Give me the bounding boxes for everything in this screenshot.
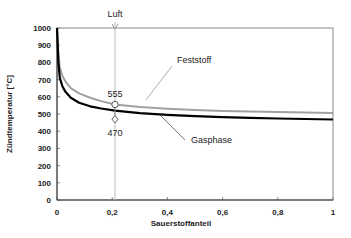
y-tick-label: 800: [38, 58, 52, 67]
series-line-gasphase: [57, 28, 333, 120]
feststoff-label: Feststoff: [177, 55, 212, 65]
x-tick-label: 0,2: [107, 208, 119, 217]
ignition-temperature-chart: 01002003004005006007008009001000 00,20,4…: [0, 0, 351, 238]
x-axis-title: Sauerstoffanteil: [151, 219, 211, 228]
y-tick-label: 300: [38, 144, 52, 153]
value-label-555: 555: [107, 89, 122, 99]
gasphase-leader-line: [160, 115, 185, 140]
marker-555-circle-icon: [112, 101, 118, 107]
y-tick-label: 700: [38, 76, 52, 85]
x-tick-label: 0: [55, 208, 60, 217]
x-tick-label: 1: [331, 208, 336, 217]
y-axis-title: Zündtemperatur [°C]: [5, 75, 14, 153]
gasphase-label: Gasphase: [191, 135, 232, 145]
y-tick-label: 100: [38, 179, 52, 188]
feststoff-leader-line: [146, 66, 172, 100]
x-tick-label: 0,8: [272, 208, 284, 217]
y-tick-label: 400: [38, 127, 52, 136]
marker-470-diamond-icon: [112, 116, 118, 124]
x-tick-label: 0,4: [162, 208, 174, 217]
y-tick-label: 500: [38, 110, 52, 119]
value-label-470: 470: [107, 128, 122, 138]
y-tick-label: 900: [38, 41, 52, 50]
luft-label: Luft: [107, 9, 123, 19]
y-tick-label: 600: [38, 93, 52, 102]
series-line-feststoff: [57, 28, 333, 113]
y-axis-ticks: 01002003004005006007008009001000: [33, 24, 60, 205]
series-lines: [57, 28, 333, 120]
y-tick-label: 200: [38, 162, 52, 171]
y-tick-label: 1000: [33, 24, 51, 33]
x-tick-label: 0,6: [217, 208, 229, 217]
y-tick-label: 0: [47, 196, 52, 205]
plot-frame: [57, 28, 333, 200]
